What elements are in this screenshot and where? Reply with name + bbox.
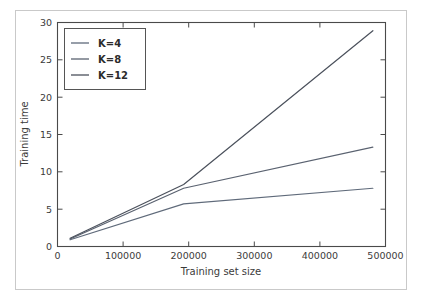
figure-root: 0 5 10 15 20 25 30 0 100000 200000 30000… <box>0 0 428 306</box>
y-tick-label: 25 <box>40 54 52 65</box>
y-tick-label: 30 <box>40 17 52 28</box>
legend-label-k4: K=4 <box>98 38 121 49</box>
y-tick-label: 10 <box>40 166 52 177</box>
x-tick-label: 100000 <box>105 250 141 261</box>
y-axis-title: Training time <box>19 101 30 167</box>
x-tick-label: 200000 <box>171 250 207 261</box>
y-tick-label: 20 <box>40 92 52 103</box>
legend-label-k12: K=12 <box>98 70 128 81</box>
x-axis-tick-labels: 0 100000 200000 300000 400000 500000 <box>54 250 403 261</box>
y-axis-tick-labels: 0 5 10 15 20 25 30 <box>40 17 52 252</box>
y-tick-label: 15 <box>40 129 52 140</box>
legend: K=4 K=8 K=12 <box>65 29 146 90</box>
line-chart: 0 5 10 15 20 25 30 0 100000 200000 30000… <box>0 0 428 306</box>
x-axis-title: Training set size <box>180 266 262 277</box>
legend-label-k8: K=8 <box>98 54 121 65</box>
y-tick-label: 5 <box>46 204 52 215</box>
x-tick-label: 300000 <box>236 250 272 261</box>
x-tick-label: 400000 <box>302 250 338 261</box>
series-line-k-4 <box>70 188 373 240</box>
x-tick-label: 500000 <box>367 250 403 261</box>
x-tick-label: 0 <box>54 250 60 261</box>
y-tick-label: 0 <box>46 241 52 252</box>
